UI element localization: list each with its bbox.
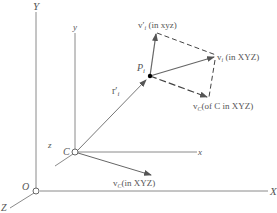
moving-frame <box>55 33 197 166</box>
vc-dashed-vector <box>150 76 207 97</box>
v-prime-label: v′i (in xyz) <box>138 20 177 31</box>
Pi-label: Pi <box>136 62 145 75</box>
reference-frames-diagram: Y X Z O y x z C Pi r′i v′i (in xyz) vi (… <box>0 0 277 213</box>
Y-label: Y <box>33 0 41 12</box>
origin-O <box>33 188 39 194</box>
vc-bottom-vector <box>78 153 151 175</box>
dash-right <box>209 60 215 97</box>
x-label: x <box>197 147 202 157</box>
vi-label: vi (in XYZ) <box>217 52 259 63</box>
y-label: y <box>72 22 77 32</box>
dash-top <box>157 33 216 55</box>
Z-label: Z <box>1 202 7 213</box>
Z-axis <box>10 193 34 208</box>
O-label: O <box>22 181 29 192</box>
v-prime-vector <box>150 34 156 76</box>
X-label: X <box>269 185 277 197</box>
labels: Y X Z O y x z C Pi r′i v′i (in xyz) vi (… <box>1 0 277 213</box>
origin-C <box>72 149 78 155</box>
point-Pi <box>148 74 152 78</box>
vc-bottom-label: vC(in XYZ) <box>113 178 155 189</box>
vc-top-label: vC(of C in XYZ) <box>193 101 253 112</box>
r-prime-label: r′i <box>112 85 120 98</box>
z-label: z <box>47 140 52 150</box>
C-label: C <box>63 146 70 157</box>
vi-vector <box>150 57 214 76</box>
